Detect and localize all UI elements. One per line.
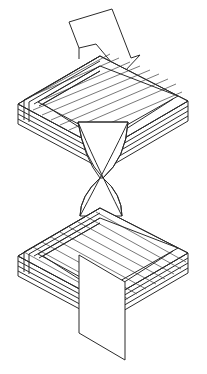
figure-canvas: Twisted ribbon specimen bonded between t…	[0, 0, 207, 374]
twisted-ribbon-laminate-diagram: Twisted ribbon specimen bonded between t…	[0, 0, 207, 374]
